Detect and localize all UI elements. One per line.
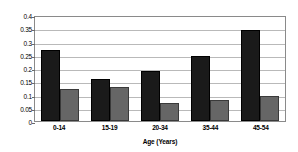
bar-group [88,17,133,121]
bar [110,87,129,121]
bar [241,30,260,121]
y-axis-tick-label: 0.1 [24,92,32,99]
bar-chart: 00.050.10.150.20.250.30.350.4 0-1415-192… [0,0,298,152]
x-axis-title: Age (Years) [34,138,286,145]
y-axis-tick-label: 0 [29,119,32,126]
bar [160,103,179,121]
plot-area [34,16,286,122]
bar-group [38,17,83,121]
y-axis-tick-label: 0.25 [20,52,32,59]
bar [210,100,229,121]
bar [41,50,60,121]
y-axis-tick-label: 0.2 [24,66,32,73]
bars-layer [35,17,285,121]
bar [141,71,160,121]
bar-group [138,17,183,121]
bar [191,56,210,121]
y-axis-tick-label: 0.3 [24,39,32,46]
y-axis-tick-label: 0.4 [24,13,32,20]
bar [60,89,79,121]
x-axis-tick-label: 45-54 [238,124,283,131]
y-axis-tick-label: 0.15 [20,79,32,86]
y-axis: 00.050.10.150.20.250.30.350.4 [4,0,32,152]
bar [260,96,279,121]
bar-group [238,17,283,121]
x-axis-tick-label: 0-14 [37,124,82,131]
x-axis: 0-1415-1920-3435-4445-54 [34,124,286,136]
x-axis-tick-label: 20-34 [137,124,182,131]
y-axis-tick-label: 0.05 [20,105,32,112]
bar [91,79,110,121]
y-axis-tick-label: 0.35 [20,26,32,33]
x-axis-tick-label: 15-19 [87,124,132,131]
bar-group [188,17,233,121]
x-axis-tick-label: 35-44 [188,124,233,131]
